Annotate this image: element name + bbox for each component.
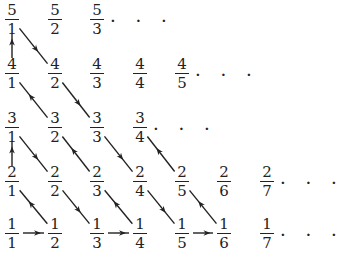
arrow-icon	[32, 152, 36, 157]
fraction-2-over-7: 27	[259, 165, 275, 199]
fraction-2-over-4: 24	[132, 165, 148, 199]
numerator: 3	[132, 111, 148, 126]
denominator: 4	[132, 76, 148, 91]
numerator: 3	[4, 111, 20, 126]
denominator: 2	[47, 184, 63, 199]
numerator: 3	[47, 111, 63, 126]
numerator: 1	[47, 217, 63, 232]
numerator: 4	[47, 57, 63, 72]
numerator: 5	[89, 3, 105, 18]
fraction-1-over-1: 11	[4, 217, 20, 251]
numerator: 4	[174, 57, 190, 72]
denominator: 1	[4, 130, 20, 145]
numerator: 2	[174, 165, 190, 180]
fraction-1-over-2: 12	[47, 217, 63, 251]
fraction-2-over-3: 23	[89, 165, 105, 199]
fraction-5-over-1: 51	[4, 3, 20, 37]
numerator: 1	[4, 217, 20, 232]
arrow-icon	[74, 151, 78, 156]
denominator: 4	[132, 184, 148, 199]
fraction-4-over-2: 42	[47, 57, 63, 91]
arrow-icon	[117, 152, 121, 157]
numerator: 5	[4, 3, 20, 18]
arrow-icon	[31, 204, 35, 209]
fraction-3-over-1: 31	[4, 111, 20, 145]
fraction-2-over-1: 21	[4, 165, 20, 199]
denominator: 5	[174, 184, 190, 199]
continuation-ellipsis: . . .	[154, 117, 218, 134]
numerator: 2	[47, 165, 63, 180]
numerator: 1	[216, 217, 232, 232]
arrow-icon	[75, 98, 79, 103]
fraction-4-over-1: 41	[4, 57, 20, 91]
denominator: 6	[216, 184, 232, 199]
numerator: 3	[89, 111, 105, 126]
fraction-4-over-3: 43	[89, 57, 105, 91]
denominator: 3	[89, 22, 105, 37]
numerator: 4	[132, 57, 148, 72]
denominator: 1	[4, 76, 20, 91]
continuation-ellipsis: . . .	[111, 9, 175, 26]
continuation-ellipsis: . . .	[281, 223, 340, 240]
denominator: 1	[4, 236, 20, 251]
numerator: 2	[132, 165, 148, 180]
arrow-icon	[116, 204, 120, 209]
numerator: 4	[89, 57, 105, 72]
denominator: 7	[259, 236, 275, 251]
denominator: 2	[47, 236, 63, 251]
fraction-4-over-5: 45	[174, 57, 190, 91]
fraction-1-over-4: 14	[132, 217, 148, 251]
numerator: 5	[47, 3, 63, 18]
fraction-1-over-7: 17	[259, 217, 275, 251]
numerator: 4	[4, 57, 20, 72]
fraction-3-over-3: 33	[89, 111, 105, 145]
arrow-icon	[160, 205, 164, 210]
arrow-icon	[32, 44, 36, 49]
arrow-icon	[200, 204, 204, 209]
denominator: 2	[47, 130, 63, 145]
numerator: 2	[89, 165, 105, 180]
fraction-5-over-2: 52	[47, 3, 63, 37]
denominator: 3	[89, 184, 105, 199]
arrow-icon	[159, 151, 163, 156]
fraction-2-over-6: 26	[216, 165, 232, 199]
fraction-5-over-3: 53	[89, 3, 105, 37]
numerator: 1	[132, 217, 148, 232]
arrow-icon	[75, 205, 79, 210]
fraction-1-over-6: 16	[216, 217, 232, 251]
fraction-2-over-5: 25	[174, 165, 190, 199]
denominator: 4	[132, 236, 148, 251]
denominator: 1	[4, 22, 20, 37]
denominator: 2	[47, 76, 63, 91]
denominator: 2	[47, 22, 63, 37]
numerator: 2	[259, 165, 275, 180]
denominator: 3	[89, 130, 105, 145]
numerator: 1	[259, 217, 275, 232]
fraction-3-over-4: 34	[132, 111, 148, 145]
denominator: 3	[89, 76, 105, 91]
denominator: 3	[89, 236, 105, 251]
fraction-3-over-2: 32	[47, 111, 63, 145]
denominator: 5	[174, 76, 190, 91]
denominator: 1	[4, 184, 20, 199]
numerator: 1	[174, 217, 190, 232]
fraction-4-over-4: 44	[132, 57, 148, 91]
fraction-1-over-5: 15	[174, 217, 190, 251]
arrow-icon	[31, 97, 35, 102]
denominator: 4	[132, 130, 148, 145]
numerator: 1	[89, 217, 105, 232]
denominator: 7	[259, 184, 275, 199]
fraction-1-over-3: 13	[89, 217, 105, 251]
continuation-ellipsis: . . .	[196, 63, 260, 80]
denominator: 5	[174, 236, 190, 251]
continuation-ellipsis: . . .	[281, 171, 340, 188]
numerator: 2	[4, 165, 20, 180]
denominator: 6	[216, 236, 232, 251]
numerator: 2	[216, 165, 232, 180]
fraction-2-over-2: 22	[47, 165, 63, 199]
